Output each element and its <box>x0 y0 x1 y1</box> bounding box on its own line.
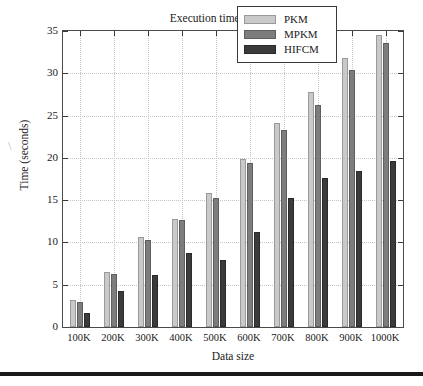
y-axis-tick-mark <box>63 200 68 201</box>
page-top-edge <box>0 0 423 2</box>
y-axis-tick-mark <box>63 285 68 286</box>
y-axis-tick-mark <box>398 116 403 117</box>
x-axis-tick-label: 400K <box>169 332 192 343</box>
bar-hifcm-1000k <box>390 161 396 327</box>
x-axis-tick-label: 300K <box>135 332 158 343</box>
bar-mpkm-600k <box>247 163 253 327</box>
x-axis-label: Data size <box>62 350 404 362</box>
y-axis-tick-mark <box>398 31 403 32</box>
x-axis-tick-mark <box>148 31 149 36</box>
y-axis-tick-mark <box>398 73 403 74</box>
y-axis-tick-label: 20 <box>30 151 58 162</box>
page-bottom-rule <box>0 372 423 376</box>
y-axis-tick-mark <box>398 158 403 159</box>
y-axis-tick-mark <box>63 116 68 117</box>
legend-label-pkm: PKM <box>284 14 308 25</box>
x-axis-tick-mark <box>114 31 115 36</box>
x-axis-tick-mark <box>182 31 183 36</box>
x-axis-tick-label: 900K <box>339 332 362 343</box>
gridline-vertical <box>80 31 81 327</box>
y-axis-tick-label: 0 <box>30 321 58 332</box>
y-axis-tick-label: 35 <box>30 25 58 36</box>
bar-mpkm-100k <box>77 302 83 327</box>
bar-hifcm-300k <box>152 275 158 327</box>
bar-hifcm-500k <box>220 260 226 327</box>
bar-mpkm-500k <box>213 198 219 327</box>
bar-pkm-200k <box>104 272 110 327</box>
bar-hifcm-600k <box>254 232 260 327</box>
bar-pkm-600k <box>240 159 246 327</box>
x-axis-tick-label: 1000K <box>371 332 400 343</box>
y-axis-tick-mark <box>398 285 403 286</box>
x-axis-tick-label: 800K <box>305 332 328 343</box>
bar-hifcm-400k <box>186 253 192 327</box>
bar-pkm-800k <box>308 92 314 327</box>
y-axis-tick-label: 30 <box>30 67 58 78</box>
x-axis-tick-label: 600K <box>237 332 260 343</box>
bar-hifcm-800k <box>322 178 328 327</box>
bar-mpkm-900k <box>349 70 355 327</box>
bar-mpkm-200k <box>111 274 117 327</box>
bar-mpkm-300k <box>145 240 151 327</box>
legend-label-hifcm: HIFCM <box>284 44 319 55</box>
chart-legend: PKM MPKM HIFCM <box>237 6 337 63</box>
y-axis-tick-mark <box>63 73 68 74</box>
legend-swatch-mpkm <box>244 30 276 39</box>
y-axis-tick-label: 15 <box>30 194 58 205</box>
bar-pkm-100k <box>70 300 76 327</box>
legend-label-mpkm: MPKM <box>284 29 318 40</box>
bar-pkm-400k <box>172 219 178 327</box>
x-axis-tick-label: 700K <box>271 332 294 343</box>
legend-item-hifcm[interactable]: HIFCM <box>244 42 330 57</box>
bar-hifcm-100k <box>84 313 90 327</box>
bar-pkm-500k <box>206 193 212 327</box>
bar-pkm-1000k <box>376 35 382 327</box>
x-axis-tick-mark <box>386 31 387 36</box>
page-smudge-mark: \ <box>8 138 18 148</box>
x-axis-tick-mark <box>216 31 217 36</box>
figure-container: \ Execution time comparison Time (second… <box>0 0 423 386</box>
plot-area <box>62 30 404 328</box>
bar-mpkm-1000k <box>383 43 389 327</box>
y-axis-tick-mark <box>63 158 68 159</box>
y-axis-tick-mark <box>63 31 68 32</box>
bar-hifcm-900k <box>356 171 362 327</box>
x-axis-tick-label: 500K <box>203 332 226 343</box>
legend-item-mpkm[interactable]: MPKM <box>244 27 330 42</box>
y-axis-tick-label: 25 <box>30 109 58 120</box>
bar-pkm-300k <box>138 237 144 327</box>
bar-mpkm-700k <box>281 130 287 327</box>
bar-mpkm-800k <box>315 105 321 327</box>
chart-title: Execution time comparison <box>62 12 404 24</box>
bar-hifcm-700k <box>288 198 294 327</box>
bar-mpkm-400k <box>179 220 185 327</box>
x-axis-tick-label: 200K <box>101 332 124 343</box>
y-axis-tick-label: 5 <box>30 278 58 289</box>
bar-pkm-700k <box>274 123 280 327</box>
y-axis-tick-label: 10 <box>30 236 58 247</box>
x-axis-tick-label: 100K <box>67 332 90 343</box>
y-axis-tick-mark <box>398 200 403 201</box>
legend-swatch-hifcm <box>244 45 276 54</box>
y-axis-tick-mark <box>398 242 403 243</box>
legend-swatch-pkm <box>244 15 276 24</box>
bar-hifcm-200k <box>118 291 124 327</box>
x-axis-tick-mark <box>352 31 353 36</box>
y-axis-tick-mark <box>63 242 68 243</box>
legend-item-pkm[interactable]: PKM <box>244 12 330 27</box>
y-axis-label: Time (seconds) <box>18 85 30 225</box>
x-axis-tick-mark <box>80 31 81 36</box>
bar-pkm-900k <box>342 58 348 327</box>
